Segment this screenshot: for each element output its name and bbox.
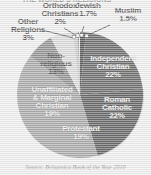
label-roman-catholic: Roman Catholic 22% (94, 96, 140, 120)
cropped-title-strip: THE WORLD'S RELIGIONS (0, 0, 151, 4)
label-muslim-line2: 1.5% (108, 15, 148, 23)
label-roman-catholic-line3: 22% (94, 112, 140, 120)
callout-marker-muslim (85, 34, 88, 37)
label-unaffiliated-line4: 19% (25, 110, 79, 118)
callout-marker-orthodox (76, 34, 79, 37)
label-jewish-line2: 1.7% (72, 10, 104, 18)
label-jewish: Jewish 1.7% (72, 2, 104, 18)
page-title: THE WORLD'S RELIGIONS (22, 0, 111, 3)
label-independent-christian: Independent Christian 22% (86, 55, 140, 79)
pie-chart-figure: THE WORLD'S RELIGIONS Other Religions 3%… (0, 0, 151, 175)
label-unaffiliated-marginal-christian: Unaffiliated & Marginal Christian 19% (25, 86, 79, 118)
callout-marker-other-religions (72, 35, 75, 38)
label-muslim: Muslim 1.5% (108, 7, 148, 23)
label-orthodox-line3: 2% (36, 18, 84, 26)
source-note: Source: Britannica Book of the Year 2010 (0, 164, 151, 170)
leader-line-muslim (88, 25, 110, 35)
label-other-religions-line3: 3% (2, 34, 54, 42)
label-non-religious: Non- religious 13% (36, 52, 76, 76)
label-non-religious-line3: 13% (36, 68, 76, 76)
label-protestant-line2: 19% (58, 133, 104, 141)
callout-marker-jewish (80, 34, 83, 37)
label-independent-line3: 22% (86, 71, 140, 79)
label-protestant: Protestant 19% (58, 125, 104, 141)
